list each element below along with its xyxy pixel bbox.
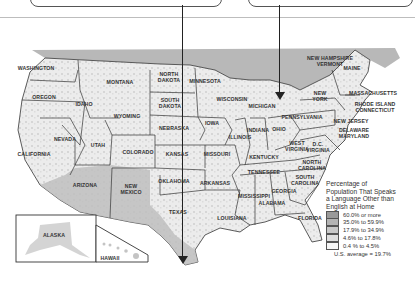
state-label: OREGON bbox=[32, 95, 56, 101]
state-label: WISCONSIN bbox=[217, 97, 248, 103]
legend-swatch bbox=[326, 242, 339, 250]
state-label: INDIANA bbox=[247, 128, 269, 134]
legend-item: 17.9% to 34.9% bbox=[326, 227, 415, 234]
state-label: FLORIDA bbox=[298, 216, 322, 222]
legend-item: 0.4 % to 4.5% bbox=[326, 242, 415, 249]
state-label: OKLAHOMA bbox=[158, 179, 189, 185]
state-label: ILLINOIS bbox=[229, 135, 252, 141]
arrow-down-icon bbox=[275, 92, 285, 100]
state-label: UTAH bbox=[91, 143, 105, 149]
state-label: TENNESSEE bbox=[248, 170, 280, 176]
legend-title-line: Percentage of bbox=[326, 180, 415, 188]
state-label: NEW JERSEY bbox=[333, 119, 368, 125]
map-legend: Percentage of Population That Speaks a L… bbox=[326, 180, 415, 257]
pointer-line-right bbox=[279, 5, 280, 96]
state-label: DELAWAREMARYLAND bbox=[339, 128, 369, 139]
legend-label: 4.6% to 17.8% bbox=[343, 235, 381, 241]
state-label: CALIFORNIA bbox=[18, 152, 51, 158]
state-label: WYOMING bbox=[114, 114, 141, 120]
state-label: RHODE ISLANDCONNECTICUT bbox=[355, 102, 396, 113]
state-label: MAINE bbox=[343, 66, 360, 72]
us-average: U.S. average = 19.7% bbox=[334, 251, 415, 257]
state-label: MASSACHUSETTS bbox=[349, 91, 397, 97]
state-label: MISSISSIPPI bbox=[238, 194, 270, 200]
legend-label: 60.0% or more bbox=[343, 212, 381, 218]
state-label: NORTHDAKOTA bbox=[158, 72, 180, 83]
state-label: D.C.VIRGINIA bbox=[306, 142, 330, 153]
pointer-line-left bbox=[182, 5, 183, 260]
state-label: COLORADO bbox=[122, 150, 153, 156]
state-label: SOUTHDAKOTA bbox=[159, 98, 181, 109]
legend-label: 17.9% to 34.9% bbox=[343, 227, 384, 233]
state-label: MICHIGAN bbox=[248, 104, 275, 110]
legend-title-line: a Language Other than bbox=[326, 195, 415, 203]
legend-label: 35.0% to 59.9% bbox=[343, 219, 384, 225]
state-label: MONTANA bbox=[107, 80, 134, 86]
state-label: ARKANSAS bbox=[200, 181, 230, 187]
state-label: WASHINGTON bbox=[18, 66, 55, 72]
state-label: ARIZONA bbox=[73, 183, 97, 189]
legend-item: 60.0% or more bbox=[326, 211, 415, 218]
legend-item: 4.6% to 17.8% bbox=[326, 234, 415, 241]
legend-title-line: Population That Speaks bbox=[326, 188, 415, 196]
state-label: OHIO bbox=[272, 127, 286, 133]
legend-label: 0.4 % to 4.5% bbox=[343, 243, 379, 249]
state-label: KANSAS bbox=[166, 152, 189, 158]
state-label: NEWYORK bbox=[312, 91, 327, 102]
state-label: ALASKA bbox=[43, 233, 65, 239]
state-label: IDAHO bbox=[75, 102, 92, 108]
state-label: PENNSYLVANIA bbox=[281, 115, 322, 121]
state-label: MINNESOTA bbox=[189, 79, 221, 85]
state-label: LOUISIANA bbox=[217, 216, 246, 222]
state-label: NEVADA bbox=[54, 137, 76, 143]
state-label: MISSOURI bbox=[204, 152, 230, 158]
state-label: KENTUCKY bbox=[249, 155, 279, 161]
arrow-down-icon bbox=[178, 256, 188, 264]
legend-title-line: English at Home bbox=[326, 203, 415, 211]
state-label: NEWMEXICO bbox=[120, 184, 141, 195]
state-label: NORTHCAROLINA bbox=[298, 160, 326, 171]
legend-item: 35.0% to 59.9% bbox=[326, 219, 415, 226]
state-label: ALABAMA bbox=[259, 201, 286, 207]
state-label: HAWAII bbox=[100, 256, 119, 262]
state-label: IOWA bbox=[205, 121, 219, 127]
state-label: NEBRASKA bbox=[159, 126, 189, 132]
state-label: GEORGIA bbox=[271, 189, 296, 195]
state-label: TEXAS bbox=[169, 210, 187, 216]
state-label: SOUTHCAROLINA bbox=[291, 175, 319, 186]
